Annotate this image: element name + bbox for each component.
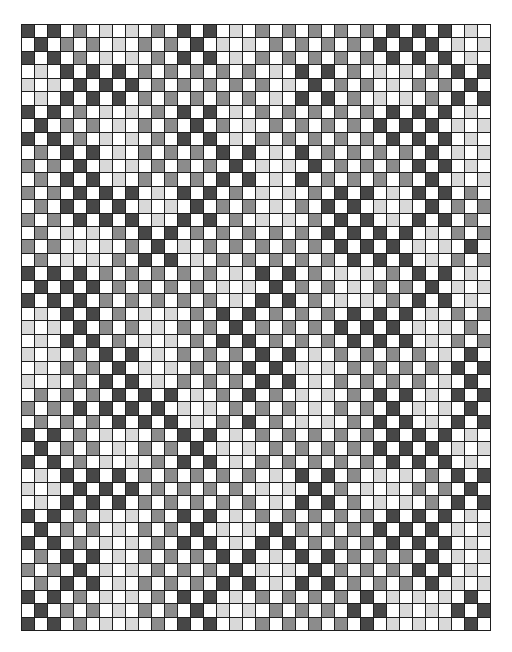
grid-cell	[465, 335, 477, 347]
grid-cell	[478, 550, 490, 562]
grid-cell	[283, 335, 295, 347]
grid-cell	[361, 564, 373, 576]
grid-cell	[452, 308, 464, 320]
grid-cell	[296, 564, 308, 576]
grid-cell	[22, 604, 34, 616]
grid-cell	[74, 348, 86, 360]
grid-cell	[322, 618, 334, 630]
grid-cell	[387, 375, 399, 387]
grid-cell	[270, 416, 282, 428]
grid-cell	[465, 483, 477, 495]
grid-cell	[243, 483, 255, 495]
grid-cell	[335, 618, 347, 630]
grid-cell	[139, 577, 151, 589]
grid-cell	[217, 267, 229, 279]
grid-cell	[61, 389, 73, 401]
grid-cell	[217, 375, 229, 387]
grid-cell	[100, 429, 112, 441]
grid-cell	[413, 294, 425, 306]
grid-cell	[217, 429, 229, 441]
grid-cell	[87, 469, 99, 481]
grid-cell	[322, 254, 334, 266]
grid-cell	[217, 200, 229, 212]
grid-cell	[178, 429, 190, 441]
grid-cell	[61, 254, 73, 266]
grid-cell	[87, 510, 99, 522]
grid-cell	[165, 564, 177, 576]
grid-cell	[413, 375, 425, 387]
grid-cell	[35, 442, 47, 454]
grid-cell	[309, 577, 321, 589]
grid-cell	[465, 591, 477, 603]
grid-cell	[243, 577, 255, 589]
grid-cell	[87, 25, 99, 37]
grid-cell	[426, 496, 438, 508]
grid-cell	[74, 523, 86, 535]
grid-cell	[165, 200, 177, 212]
grid-cell	[452, 537, 464, 549]
grid-cell	[387, 442, 399, 454]
grid-cell	[374, 456, 386, 468]
grid-cell	[87, 416, 99, 428]
grid-cell	[126, 389, 138, 401]
grid-cell	[35, 604, 47, 616]
grid-cell	[478, 308, 490, 320]
grid-cell	[452, 25, 464, 37]
grid-cell	[465, 79, 477, 91]
grid-cell	[283, 456, 295, 468]
grid-cell	[270, 38, 282, 50]
grid-cell	[191, 214, 203, 226]
grid-cell	[22, 119, 34, 131]
grid-cell	[439, 254, 451, 266]
grid-cell	[243, 469, 255, 481]
grid-cell	[204, 416, 216, 428]
grid-cell	[165, 240, 177, 252]
grid-cell	[35, 335, 47, 347]
grid-cell	[165, 469, 177, 481]
grid-cell	[296, 133, 308, 145]
grid-cell	[426, 294, 438, 306]
grid-cell	[256, 510, 268, 522]
grid-cell	[400, 200, 412, 212]
grid-cell	[243, 200, 255, 212]
grid-cell	[400, 65, 412, 77]
grid-cell	[35, 294, 47, 306]
grid-cell	[61, 510, 73, 522]
grid-cell	[478, 294, 490, 306]
grid-cell	[22, 389, 34, 401]
grid-cell	[217, 106, 229, 118]
grid-cell	[126, 429, 138, 441]
grid-cell	[74, 267, 86, 279]
grid-cell	[217, 402, 229, 414]
grid-cell	[322, 389, 334, 401]
grid-cell	[270, 362, 282, 374]
grid-cell	[74, 240, 86, 252]
grid-cell	[452, 389, 464, 401]
grid-cell	[204, 119, 216, 131]
grid-cell	[113, 214, 125, 226]
grid-cell	[465, 146, 477, 158]
grid-cell	[309, 267, 321, 279]
grid-cell	[100, 456, 112, 468]
grid-cell	[191, 146, 203, 158]
grid-cell	[126, 577, 138, 589]
grid-cell	[230, 281, 242, 293]
grid-cell	[413, 348, 425, 360]
grid-cell	[152, 469, 164, 481]
grid-cell	[478, 389, 490, 401]
grid-cell	[387, 65, 399, 77]
grid-cell	[48, 173, 60, 185]
grid-cell	[400, 119, 412, 131]
grid-cell	[113, 308, 125, 320]
grid-cell	[283, 92, 295, 104]
grid-cell	[426, 133, 438, 145]
grid-cell	[139, 591, 151, 603]
grid-cell	[48, 375, 60, 387]
grid-cell	[348, 160, 360, 172]
grid-cell	[256, 200, 268, 212]
grid-cell	[100, 523, 112, 535]
grid-cell	[283, 429, 295, 441]
grid-cell	[465, 523, 477, 535]
grid-cell	[296, 240, 308, 252]
grid-cell	[283, 267, 295, 279]
